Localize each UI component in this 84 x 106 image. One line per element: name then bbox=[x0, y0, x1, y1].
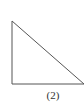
right-triangle bbox=[12, 21, 84, 84]
figure-label: (2) bbox=[0, 89, 84, 101]
